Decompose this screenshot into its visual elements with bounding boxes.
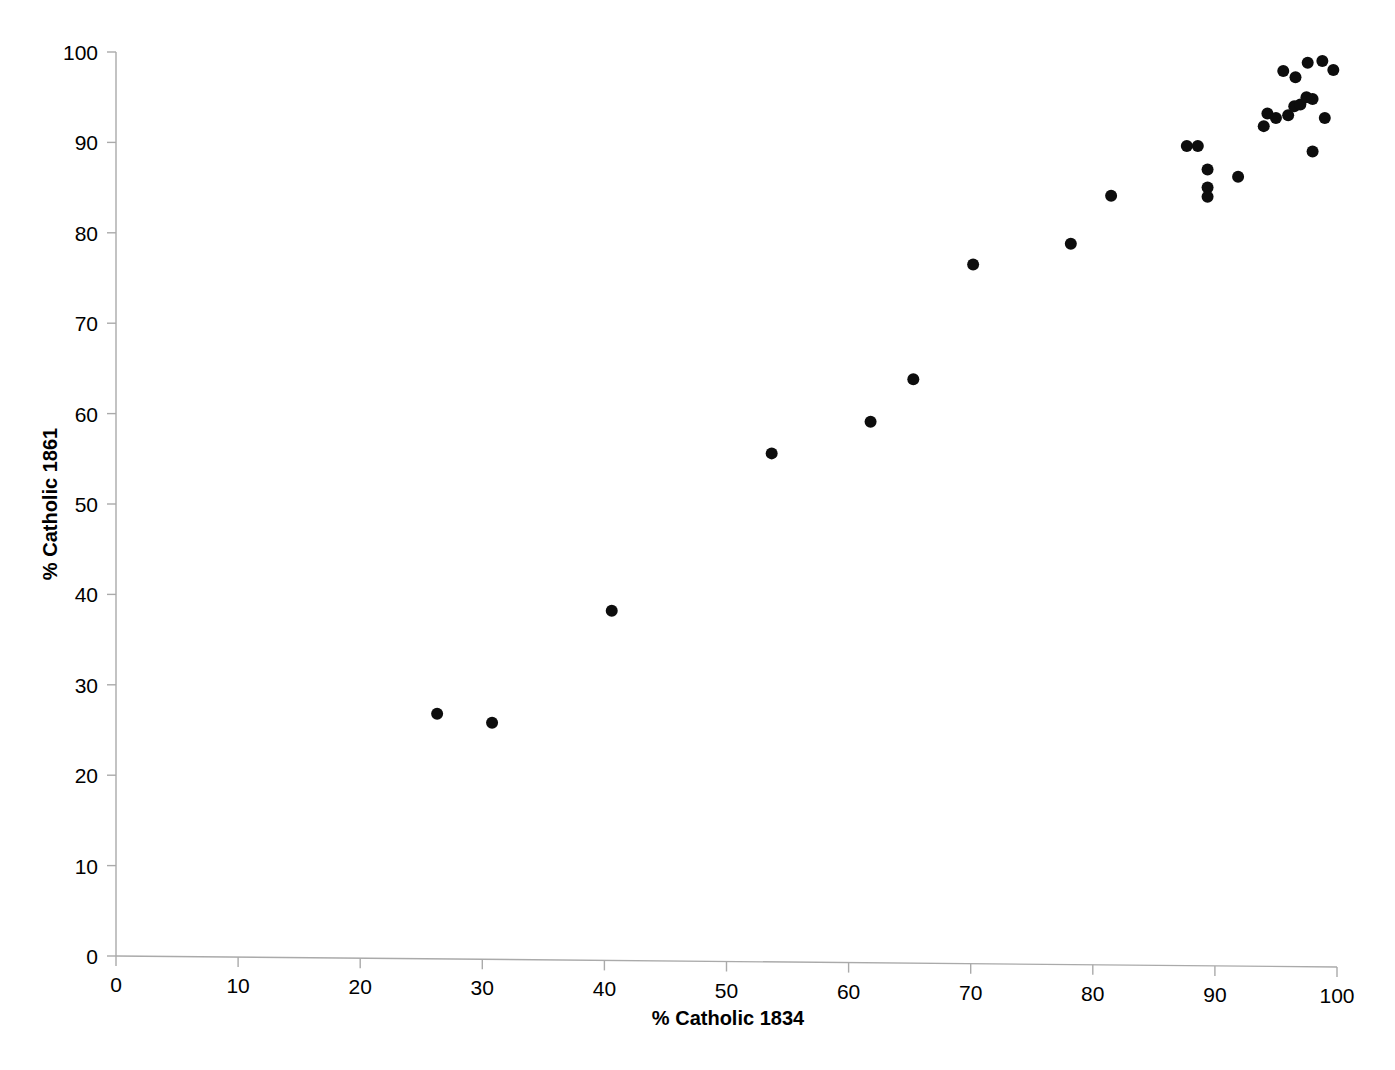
data-point-marker [1316,55,1328,67]
x-tick-label: 40 [593,977,616,1000]
x-tick-label: 50 [715,979,738,1002]
data-point-marker [606,605,618,617]
data-point-marker [1258,120,1270,132]
y-tick-label: 0 [86,945,98,968]
y-tick-label: 50 [75,493,98,516]
y-tick-label: 20 [75,764,98,787]
y-tick-label: 90 [75,131,98,154]
data-point-marker [1192,140,1204,152]
y-axis-title: % Catholic 1861 [39,428,61,580]
data-point-marker [967,258,979,270]
data-point-marker [1105,190,1117,202]
x-tick-label: 100 [1319,984,1354,1007]
scatter-chart: 0102030405060708090100 01020304050607080… [0,0,1395,1070]
x-axis: 0102030405060708090100 [110,956,1354,1007]
y-tick-label: 30 [75,674,98,697]
x-tick-label: 80 [1081,982,1104,1005]
data-point-marker [1202,191,1214,203]
x-tick-label: 10 [226,974,249,997]
data-point-marker [1181,140,1193,152]
y-tick-label: 100 [63,41,98,64]
data-point-marker [907,373,919,385]
data-points [431,55,1339,729]
x-tick-label: 60 [837,980,860,1003]
data-point-marker [1307,145,1319,157]
y-tick-label: 10 [75,855,98,878]
data-point-marker [766,447,778,459]
data-point-marker [865,416,877,428]
data-point-marker [1319,112,1331,124]
y-tick-label: 60 [75,403,98,426]
data-point-marker [1232,171,1244,183]
data-point-marker [1307,93,1319,105]
y-tick-label: 70 [75,312,98,335]
data-point-marker [1270,112,1282,124]
x-tick-label: 0 [110,973,122,996]
data-point-marker [486,717,498,729]
x-tick-label: 20 [349,975,372,998]
data-point-marker [1277,65,1289,77]
data-point-marker [1302,57,1314,69]
data-point-marker [431,708,443,720]
x-tick-label: 90 [1203,983,1226,1006]
y-tick-label: 40 [75,583,98,606]
data-point-marker [1065,238,1077,250]
y-tick-label: 80 [75,222,98,245]
x-axis-title: % Catholic 1834 [652,1007,805,1029]
x-tick-label: 30 [471,976,494,999]
plot-area: 0102030405060708090100 01020304050607080… [0,0,1395,1070]
data-point-marker [1327,64,1339,76]
data-point-marker [1289,71,1301,83]
y-axis: 0102030405060708090100 [63,41,116,968]
x-tick-label: 70 [959,981,982,1004]
data-point-marker [1202,164,1214,176]
